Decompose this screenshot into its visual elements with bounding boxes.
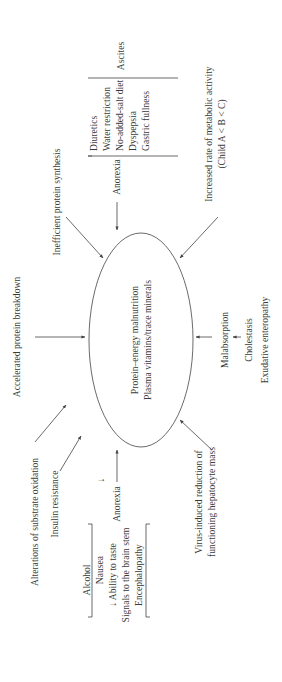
diagram-canvas: Protein–energy malnutrition Plasma vitam…: [0, 0, 282, 682]
right-anorexia-item-2: No-added-salt diet: [114, 80, 125, 151]
left-anorexia-down-arrow: ↓: [95, 478, 106, 483]
right-anorexia-item-3: Dyspepsia: [127, 110, 138, 151]
label-insulin-resistance: Insulin resistance: [49, 471, 60, 538]
right-anorexia-item-4: Gastric fullness: [140, 91, 151, 151]
right-anorexia-label: Anorexia: [111, 158, 122, 194]
arrow-inefficient-synthesis: [66, 217, 103, 258]
left-anorexia-item-4: Encephalopathy: [133, 544, 144, 606]
left-anorexia-bracket-bottom: [146, 524, 150, 617]
label-inefficient-protein-synthesis: Inefficient protein synthesis: [51, 148, 62, 255]
arrow-metabolic-activity: [180, 217, 218, 258]
arrow-virus-induced: [180, 420, 212, 450]
label-malabsorption: Malabsorption: [219, 312, 230, 368]
label-exudative-enteropathy: Exudative enteropathy: [259, 297, 270, 384]
label-substrate-oxidation: Alterations of substrate oxidation: [29, 458, 40, 586]
center-text-2: Plasma vitamins/trace minerals: [142, 280, 153, 400]
left-anorexia-item-0: Alcohol: [81, 564, 92, 595]
ascites-label: Ascites: [115, 42, 126, 71]
right-anorexia-item-0: Diuretics: [88, 116, 99, 151]
arrow-insulin-resistance: [60, 436, 81, 471]
right-anorexia-item-1: Water restriction: [101, 87, 112, 151]
central-ellipse: [89, 233, 193, 447]
label-cholestasis: Cholestasis: [243, 318, 254, 362]
center-text-1: Protein–energy malnutrition: [129, 286, 140, 394]
label-accelerated-protein-breakdown: Accelerated protein breakdown: [11, 277, 22, 398]
label-virus-induced-2: functioning hepatocyte mass: [206, 447, 217, 557]
arrow-substrate-oxidation: [35, 405, 66, 442]
left-anorexia-item-3: Signals to the brain stem: [120, 527, 131, 622]
left-anorexia-item-1: Nausea: [94, 555, 105, 584]
label-metabolic-activity-2: (Child A < B < C): [216, 99, 228, 168]
left-anorexia-item-2: ↓ Ability to taste: [107, 543, 118, 607]
label-virus-induced-1: Virus-induced reduction of: [193, 450, 204, 554]
left-anorexia-label: Anorexia: [111, 485, 122, 521]
label-metabolic-activity-1: Increased rate of metabolic activity: [203, 66, 214, 202]
